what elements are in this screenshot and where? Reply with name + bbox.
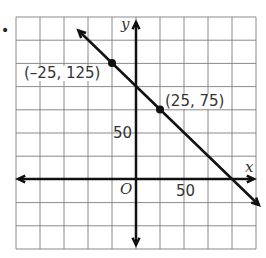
- x-tick-label-50: 50: [176, 184, 195, 199]
- point-label-1: (–25, 125): [24, 66, 100, 81]
- y-axis-label: y: [121, 17, 129, 32]
- x-axis-label: x: [245, 160, 253, 175]
- point-label-2: (25, 75): [165, 94, 224, 109]
- coordinate-plane: [0, 0, 266, 258]
- origin-label: O: [120, 182, 132, 197]
- y-tick-label-50: 50: [113, 126, 132, 141]
